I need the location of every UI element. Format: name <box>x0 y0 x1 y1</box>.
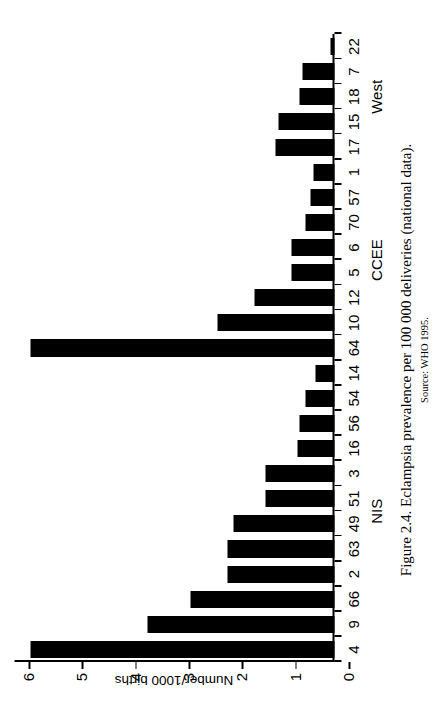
bar <box>302 63 334 80</box>
category-axis-tick <box>334 359 341 361</box>
value-axis-tick <box>348 662 350 669</box>
category-axis-tick <box>334 409 341 411</box>
value-axis-tick-label: 3 <box>181 673 196 681</box>
value-axis-title: Number/1000 births <box>64 673 284 688</box>
bar <box>299 88 334 105</box>
category-axis-tick <box>334 434 341 436</box>
bar <box>30 339 334 356</box>
category-axis-tick <box>334 459 341 461</box>
category-axis-tick <box>334 32 341 34</box>
bar <box>275 139 334 156</box>
bar <box>278 113 334 130</box>
category-axis-label: 15 <box>345 114 360 131</box>
category-axis-label: 7 <box>345 68 360 76</box>
bar <box>305 214 334 231</box>
category-axis-label: 16 <box>345 440 360 457</box>
category-axis-tick <box>334 208 341 210</box>
value-axis-tick-label: 0 <box>341 673 356 681</box>
category-axis-tick <box>334 485 341 487</box>
category-axis-label: 12 <box>345 289 360 306</box>
bar <box>265 490 334 507</box>
category-axis-tick <box>334 585 341 587</box>
category-axis-label: 49 <box>345 516 360 533</box>
plot-area <box>14 34 334 662</box>
bar <box>291 264 334 281</box>
category-axis-tick <box>334 610 341 612</box>
figure-caption: Figure 2.4. Eclampsia prevalence per 100… <box>396 0 430 720</box>
value-axis-tick <box>188 662 190 669</box>
bar <box>30 641 334 658</box>
bar <box>299 415 334 432</box>
value-axis-tick-label: 4 <box>127 673 142 681</box>
category-axis-label: 4 <box>345 645 360 653</box>
category-axis-tick <box>334 183 341 185</box>
bar <box>227 540 334 557</box>
bar <box>233 515 334 532</box>
category-axis-label: 9 <box>345 620 360 628</box>
category-axis-tick <box>334 660 341 662</box>
category-axis-label: 3 <box>345 469 360 477</box>
category-group-label: West <box>368 80 383 114</box>
category-group-label: NIS <box>368 499 383 524</box>
category-axis-label: 14 <box>345 365 360 382</box>
value-axis-tick <box>81 662 83 669</box>
caption-text: Figure 2.4. Eclampsia prevalence per 100… <box>396 0 415 720</box>
value-axis-tick-label: 1 <box>287 673 302 681</box>
caption-source: Source: WHO 1995. <box>417 0 431 720</box>
category-axis-label: 66 <box>345 591 360 608</box>
category-axis-tick <box>334 384 341 386</box>
category-axis-tick <box>334 259 341 261</box>
category-axis-label: 64 <box>345 340 360 357</box>
bar <box>265 465 334 482</box>
value-axis-tick <box>135 662 137 669</box>
value-axis-tick-label: 2 <box>234 673 249 681</box>
category-axis-label: 70 <box>345 214 360 231</box>
value-axis-tick-label: 6 <box>21 673 36 681</box>
category-axis-tick <box>334 284 341 286</box>
category-axis-label: 63 <box>345 541 360 558</box>
bar <box>305 390 334 407</box>
category-axis-tick <box>334 510 341 512</box>
bar <box>297 440 334 457</box>
category-axis-tick <box>334 309 341 311</box>
category-axis-tick <box>334 58 341 60</box>
value-axis-tick <box>295 662 297 669</box>
bar <box>217 314 334 331</box>
bar <box>190 591 334 608</box>
category-axis-tick <box>334 535 341 537</box>
category-axis-tick <box>334 83 341 85</box>
category-axis-label: 54 <box>345 390 360 407</box>
category-group-label: CCEE <box>368 239 383 281</box>
category-axis-tick <box>334 133 341 135</box>
bar <box>330 38 334 55</box>
bar <box>254 289 334 306</box>
category-axis-label: 18 <box>345 88 360 105</box>
bar <box>147 616 334 633</box>
value-axis-tick-label: 5 <box>74 673 89 681</box>
category-axis-label: 5 <box>345 268 360 276</box>
value-axis-tick <box>241 662 243 669</box>
bar <box>291 239 334 256</box>
category-axis: 4966263495131656541464101256705711715187… <box>334 34 404 662</box>
category-axis-tick <box>334 233 341 235</box>
category-axis-label: 1 <box>345 168 360 176</box>
figure-rotator: Number/1000 births 0123456 4966263495131… <box>0 0 445 720</box>
category-axis-label: 2 <box>345 570 360 578</box>
category-axis-label: 56 <box>345 415 360 432</box>
category-axis-tick <box>334 158 341 160</box>
value-axis-tick <box>28 662 30 669</box>
category-axis-tick <box>334 635 341 637</box>
bar-series <box>14 34 334 662</box>
category-axis-label: 51 <box>345 490 360 507</box>
category-axis-label: 22 <box>345 38 360 55</box>
category-axis-tick <box>334 108 341 110</box>
bar <box>310 189 334 206</box>
category-axis-tick <box>334 560 341 562</box>
bar <box>315 365 334 382</box>
category-axis-label: 17 <box>345 139 360 156</box>
category-axis-tick <box>334 334 341 336</box>
category-axis-label: 6 <box>345 243 360 251</box>
category-axis-label: 57 <box>345 189 360 206</box>
bar <box>313 164 334 181</box>
bar <box>227 566 334 583</box>
